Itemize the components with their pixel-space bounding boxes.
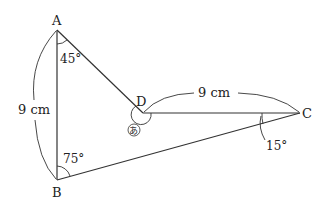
length-label-dc: 9 cm bbox=[198, 85, 230, 100]
length-label-ab: 9 cm bbox=[18, 102, 50, 117]
point-label-a: A bbox=[51, 13, 62, 28]
point-label-b: B bbox=[52, 185, 62, 200]
angle-arc-c bbox=[262, 113, 263, 124]
angle-label-b: 75° bbox=[63, 152, 84, 166]
unknown-angle-marker-label: あ bbox=[129, 126, 138, 136]
length-arc-ab bbox=[33, 31, 56, 100]
segment-bc bbox=[57, 113, 300, 180]
length-arc-dc-left bbox=[144, 93, 194, 112]
length-arc-dc-right bbox=[238, 93, 299, 112]
angle-label-c: 15° bbox=[266, 139, 287, 153]
angle-arc-b bbox=[57, 166, 70, 176]
angle-label-a: 45° bbox=[60, 52, 81, 66]
length-arc-ab-lower bbox=[35, 120, 56, 179]
point-label-c: C bbox=[302, 106, 312, 121]
angle-arc-a bbox=[57, 40, 67, 44]
geometry-diagram: A B C D 9 cm 9 cm 45° 75° 15° あ bbox=[0, 0, 315, 205]
point-label-d: D bbox=[136, 94, 146, 109]
segment-ad bbox=[57, 30, 143, 113]
